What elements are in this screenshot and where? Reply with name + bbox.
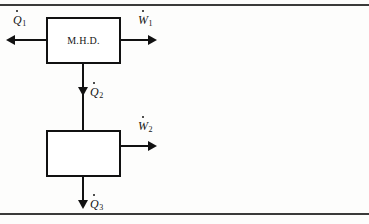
top-rule: [0, 4, 369, 6]
q2-subscript: 2: [99, 91, 103, 100]
w2-subscript: 2: [149, 125, 153, 134]
w1-arrowhead-icon: [148, 35, 157, 45]
q3-label: Q3: [90, 198, 103, 212]
w1-subscript: 1: [149, 19, 153, 28]
q1-arrowhead-icon: [6, 35, 15, 45]
q1-flow-line: [15, 39, 47, 41]
w1-label: W1: [138, 14, 153, 28]
q1-symbol: Q: [13, 14, 22, 26]
q2-label: Q2: [90, 86, 103, 100]
q2-symbol: Q: [90, 86, 99, 98]
w2-label: W2: [138, 120, 153, 134]
w1-flow-line: [121, 39, 150, 41]
w2-arrowhead-icon: [148, 141, 157, 151]
q2-flow-line: [82, 64, 84, 130]
w1-symbol: W: [138, 14, 148, 26]
q3-symbol: Q: [90, 198, 99, 210]
q1-subscript: 1: [22, 19, 26, 28]
bottom-rule: [0, 213, 369, 215]
q1-label: Q1: [13, 14, 26, 28]
mhd-block: M.H.D.: [46, 17, 121, 64]
w2-symbol: W: [138, 120, 148, 132]
lower-block: [46, 130, 121, 177]
q3-arrowhead-icon: [78, 200, 88, 209]
w2-flow-line: [121, 145, 150, 147]
mhd-cycle-diagram: Q1 M.H.D. W1 Q2 W2 Q3: [0, 0, 369, 224]
q3-subscript: 3: [99, 203, 103, 212]
mhd-block-label: M.H.D.: [67, 35, 100, 46]
q2-arrowhead-icon: [78, 87, 88, 96]
